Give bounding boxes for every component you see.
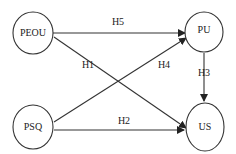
node-pu: PU [185,12,223,52]
node-label-psq: PSQ [24,121,43,132]
node-label-us: US [199,121,212,132]
node-psq: PSQ [13,105,53,149]
node-us: US [186,103,224,151]
edge-label-h4: H4 [158,59,170,70]
research-model-diagram: PEOU PU PSQ US H5 H1 H4 H2 H3 [0,0,236,154]
edge-label-h1: H1 [82,59,94,70]
edge-label-h2: H2 [118,115,130,126]
node-label-pu: PU [198,24,212,35]
node-label-peou: PEOU [20,27,47,38]
edge-label-h3: H3 [198,67,210,78]
node-peou: PEOU [13,12,53,54]
edge-label-h5: H5 [112,16,124,27]
